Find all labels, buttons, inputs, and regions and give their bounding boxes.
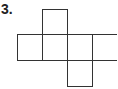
net-square-top	[43, 10, 68, 35]
net-square-middle-2	[43, 35, 68, 61]
net-square-middle-3	[68, 35, 93, 61]
net-square-bottom	[68, 61, 93, 87]
net-square-middle-1	[18, 35, 43, 61]
net-square-middle-4	[93, 35, 118, 61]
cube-net-diagram	[0, 0, 117, 89]
